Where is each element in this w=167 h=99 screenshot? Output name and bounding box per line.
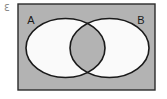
set-a-label: A	[27, 14, 35, 26]
venn-diagram-canvas: A B ℇ	[0, 0, 167, 99]
venn-diagram-figure: A B ℇ	[0, 0, 167, 99]
set-b-label: B	[137, 14, 144, 26]
corner-mark-glyph: ℇ	[4, 3, 10, 13]
